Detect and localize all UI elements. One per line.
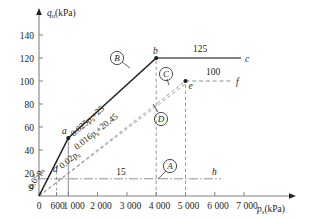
x-tick-label-7000: 7 000 (236, 201, 258, 211)
point-label-f: f (236, 77, 240, 87)
marker-point-e (183, 79, 187, 83)
x-tick-label-2000: 2 000 (90, 201, 112, 211)
y-axis-title-unit: (kPa) (55, 8, 76, 19)
x-tick-label-6000: 6 000 (207, 201, 229, 211)
point-label-h: h (212, 167, 217, 177)
y-tick-label-100: 100 (20, 77, 35, 87)
y-axis-arrow (36, 8, 42, 15)
region-leader-B (122, 62, 130, 68)
x-axis-title: ps(kPa) (256, 204, 285, 215)
axes-group (36, 8, 296, 199)
region-label-C: C (163, 69, 170, 79)
x-tick-label-0: 0 (37, 201, 42, 211)
y-tick-label-140: 140 (20, 31, 35, 41)
x-axis-title-unit: (kPa) (264, 204, 285, 215)
x-ticks-group: 0 600 1 000 2 000 3 000 4 000 5 000 6 00… (37, 192, 258, 211)
point-label-d: d (53, 164, 58, 174)
point-label-a: a (62, 126, 67, 136)
value-label-100: 100 (206, 67, 221, 77)
y-tick-label-80: 80 (25, 100, 35, 110)
equation-annotations-group: 0.025ps+25 0.016ps+20.45 0.05ps 0.02ps (26, 103, 121, 191)
point-label-e: e (189, 81, 193, 91)
x-tick-label-1000: 1 000 (63, 201, 85, 211)
region-leader-A (158, 171, 166, 179)
value-label-125: 125 (193, 44, 208, 54)
region-label-A: A (166, 161, 173, 171)
chart-svg: 140 120 100 80 60 40 20 0 600 1 000 2 00… (0, 0, 323, 220)
y-tick-label-60: 60 (25, 123, 35, 133)
x-tick-label-4000: 4 000 (149, 201, 171, 211)
y-axis-title: qu(kPa) (47, 8, 76, 19)
y-tick-label-120: 120 (20, 54, 35, 64)
chart-container: 140 120 100 80 60 40 20 0 600 1 000 2 00… (0, 0, 323, 220)
x-tick-label-5000: 5 000 (178, 201, 200, 211)
x-tick-label-3000: 3 000 (120, 201, 142, 211)
x-axis-arrow (289, 193, 296, 199)
point-label-c: c (245, 54, 250, 64)
point-label-b: b (153, 46, 158, 56)
value-annotations-group: 125 100 15 (116, 44, 220, 177)
region-label-D: D (157, 114, 165, 124)
marker-point-b (154, 56, 158, 60)
region-label-B: B (114, 53, 120, 63)
value-label-15: 15 (116, 167, 126, 177)
y-tick-label-40: 40 (25, 146, 35, 156)
marker-point-a (66, 136, 70, 140)
